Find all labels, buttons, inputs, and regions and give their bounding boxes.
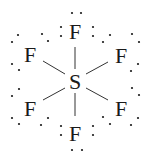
lone-pair-electron-dot [102,116,104,118]
lone-pair-electron-dot [11,117,13,119]
lone-pair-electron-dot [18,88,20,90]
bond-s-f-upper-right [86,62,108,74]
lone-pair-electron-dot [80,12,82,14]
lone-pair-electron-dot [130,70,132,72]
central-atom-sulfur: S [69,69,81,94]
lone-pair-electron-dot [92,26,94,28]
lone-pair-electron-dot [11,95,13,97]
lone-pair-electron-dot [102,41,104,43]
lone-pair-electron-dot [81,149,83,151]
lone-pair-electron-dot [131,87,133,89]
lone-pair-electron-dot [138,41,140,43]
lone-pair-electron-dot [130,124,132,126]
lone-pair-electron-dot [137,117,139,119]
lone-pair-electron-dot [137,63,139,65]
lone-pair-electron-dot [47,40,49,42]
lone-pair-electron-dot [92,134,94,136]
lone-pair-electron-dot [11,41,13,43]
lewis-structure-sf6: S FFFFFF [0,0,149,158]
lone-pair-electron-dot [60,26,62,28]
lone-pair-electron-dot [47,117,49,119]
lone-pair-electron-dot [11,63,13,65]
lone-pair-electron-dot [131,33,133,35]
lewis-structure-canvas: S FFFFFF [0,0,149,158]
bond-s-f-lower-left [43,88,65,100]
lone-pair-electron-dot [92,125,94,127]
lone-pair-electron-dot [17,34,19,36]
fluorine-atom-top: F [69,19,81,44]
lone-pair-electron-dot [109,34,111,36]
lone-pair-electron-dot [109,123,111,125]
fluorine-atom-lower-right: F [115,96,127,121]
lone-pair-electron-dot [138,94,140,96]
fluorine-atom-lower-left: F [24,96,36,121]
bond-s-f-upper-left [43,61,65,74]
lone-pair-electron-dot [60,134,62,136]
lone-pair-electron-dot [60,35,62,37]
lone-pair-electron-dot [92,35,94,37]
fluorine-atom-bottom: F [69,121,81,146]
bond-s-f-lower-right [86,88,108,100]
lone-pair-electron-dot [18,123,20,125]
fluorine-atom-upper-left: F [24,42,36,67]
lone-pair-electron-dot [71,12,73,14]
fluorine-atom-upper-right: F [115,43,127,68]
lone-pair-electron-dot [60,125,62,127]
lone-pair-electron-dot [41,33,43,35]
atom-group: S FFFFFF [24,19,127,146]
lone-pair-electron-dot [18,69,20,71]
lone-pair-electron-dot [71,149,73,151]
lone-pair-electron-dot [40,124,42,126]
